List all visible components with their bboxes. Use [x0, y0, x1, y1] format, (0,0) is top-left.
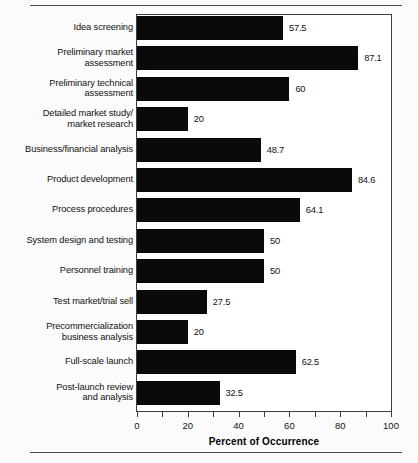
bar-row: Detailed market study/ market research20: [0, 107, 418, 131]
bar: [137, 381, 220, 405]
bar-value-label: 57.5: [289, 23, 306, 33]
x-axis-tick: [213, 411, 214, 417]
bar: [137, 16, 283, 40]
bar-row: Post-launch review and analysis32.5: [0, 381, 418, 405]
bar-row: System design and testing50: [0, 229, 418, 253]
bar-rows-container: Idea screening57.5Preliminary market ass…: [0, 16, 418, 412]
bar-category-label: Preliminary market assessment: [0, 47, 133, 68]
bar: [137, 290, 207, 314]
bar: [137, 46, 358, 70]
bar-category-label: System design and testing: [0, 235, 133, 246]
bar-value-label: 87.1: [364, 53, 381, 63]
bar-category-label: Business/financial analysis: [0, 144, 133, 155]
bar-value-label: 27.5: [213, 297, 230, 307]
bar: [137, 320, 188, 344]
bar-row: Full-scale launch62.5: [0, 350, 418, 374]
x-axis-tick-label: 40: [219, 420, 259, 431]
top-divider-rule: [30, 5, 402, 6]
x-axis-tick: [162, 411, 163, 417]
bar-value-label: 50: [270, 236, 280, 246]
bar-value-label: 20: [194, 114, 204, 124]
x-axis: 020406080100: [136, 411, 392, 412]
bar-category-label: Product development: [0, 174, 133, 185]
bar-row: Product development84.6: [0, 168, 418, 192]
bar-value-label: 50: [270, 266, 280, 276]
x-axis-tick: [289, 411, 290, 417]
x-axis-tick-label: 80: [320, 420, 360, 431]
bar-value-label: 48.7: [267, 145, 284, 155]
bar-category-label: Test market/trial sell: [0, 296, 133, 307]
x-axis-title: Percent of Occurrence: [136, 436, 392, 447]
bar: [137, 168, 352, 192]
bar-row: Process procedures64.1: [0, 198, 418, 222]
bar-value-label: 60: [295, 84, 305, 94]
bar-row: Preliminary technical assessment60: [0, 77, 418, 101]
bar-category-label: Full-scale launch: [0, 356, 133, 367]
bar-row: Idea screening57.5: [0, 16, 418, 40]
bar: [137, 198, 300, 222]
x-axis-tick: [340, 411, 341, 417]
bar-value-label: 32.5: [226, 388, 243, 398]
bar: [137, 138, 261, 162]
bar-row: Preliminary market assessment87.1: [0, 46, 418, 70]
x-axis-tick-label: 100: [371, 420, 411, 431]
bar-category-label: Process procedures: [0, 204, 133, 215]
x-axis-tick: [137, 411, 138, 417]
x-axis-tick: [239, 411, 240, 417]
bar: [137, 77, 289, 101]
bar-value-label: 84.6: [358, 175, 375, 185]
x-axis-tick: [264, 411, 265, 417]
bar-chart-figure: Idea screening57.5Preliminary market ass…: [0, 0, 418, 463]
bar-row: Test market/trial sell27.5: [0, 290, 418, 314]
x-axis-tick: [366, 411, 367, 417]
bottom-divider-rule: [30, 452, 402, 453]
bar-row: Business/financial analysis48.7: [0, 138, 418, 162]
bar-value-label: 64.1: [306, 205, 323, 215]
x-axis-tick-label: 60: [269, 420, 309, 431]
x-axis-tick-label: 20: [168, 420, 208, 431]
bar: [137, 107, 188, 131]
x-axis-tick-label: 0: [117, 420, 157, 431]
x-axis-tick: [315, 411, 316, 417]
bar-row: Precommercialization business analysis20: [0, 320, 418, 344]
bar-value-label: 20: [194, 327, 204, 337]
bar-category-label: Personnel training: [0, 265, 133, 276]
x-axis-tick: [391, 411, 392, 417]
bar-category-label: Precommercialization business analysis: [0, 321, 133, 342]
bar-category-label: Preliminary technical assessment: [0, 78, 133, 99]
bar: [137, 350, 296, 374]
bar: [137, 259, 264, 283]
bar-value-label: 62.5: [302, 357, 319, 367]
bar: [137, 229, 264, 253]
x-axis-tick: [188, 411, 189, 417]
bar-row: Personnel training50: [0, 259, 418, 283]
bar-category-label: Idea screening: [0, 22, 133, 33]
bar-category-label: Detailed market study/ market research: [0, 108, 133, 129]
bar-category-label: Post-launch review and analysis: [0, 382, 133, 403]
